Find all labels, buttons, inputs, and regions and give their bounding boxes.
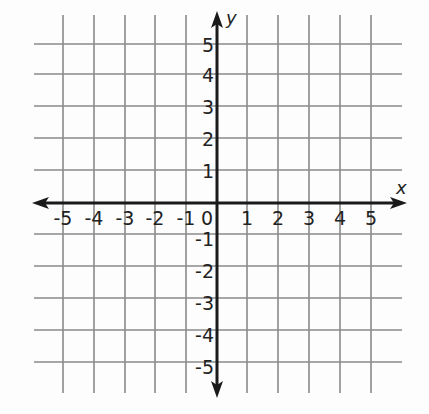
y-tick-label: 2 bbox=[202, 128, 214, 150]
x-tick-label: 2 bbox=[272, 207, 284, 229]
y-axis-label: y bbox=[225, 7, 237, 28]
y-tick-label: 1 bbox=[202, 160, 214, 182]
y-tick-label: 5 bbox=[202, 34, 214, 56]
y-tick-labels: 12345-1-2-3-4-5 bbox=[195, 34, 214, 378]
x-tick-label: -4 bbox=[85, 207, 104, 229]
x-tick-label: 4 bbox=[334, 207, 346, 229]
x-tick-label: -2 bbox=[146, 207, 165, 229]
x-axis-label: x bbox=[395, 177, 407, 198]
x-axis: x bbox=[32, 177, 407, 209]
x-tick-label: 5 bbox=[365, 207, 377, 229]
x-tick-label: 0 bbox=[201, 207, 213, 229]
coordinate-plane: x y -5-4-3-2-1012345 12345-1-2-3-4-5 bbox=[0, 0, 429, 414]
y-tick-label: 3 bbox=[202, 96, 214, 118]
y-tick-label: -5 bbox=[195, 356, 214, 378]
y-tick-label: 4 bbox=[202, 64, 214, 86]
y-tick-label: -4 bbox=[195, 324, 214, 346]
x-tick-labels: -5-4-3-2-1012345 bbox=[54, 207, 378, 229]
y-tick-label: -2 bbox=[195, 260, 214, 282]
x-tick-label: 3 bbox=[303, 207, 315, 229]
x-tick-label: -5 bbox=[54, 207, 73, 229]
x-tick-label: 1 bbox=[241, 207, 253, 229]
x-tick-label: -3 bbox=[116, 207, 135, 229]
y-tick-label: -1 bbox=[195, 228, 214, 250]
x-tick-label: -1 bbox=[177, 207, 196, 229]
y-tick-label: -3 bbox=[195, 292, 214, 314]
